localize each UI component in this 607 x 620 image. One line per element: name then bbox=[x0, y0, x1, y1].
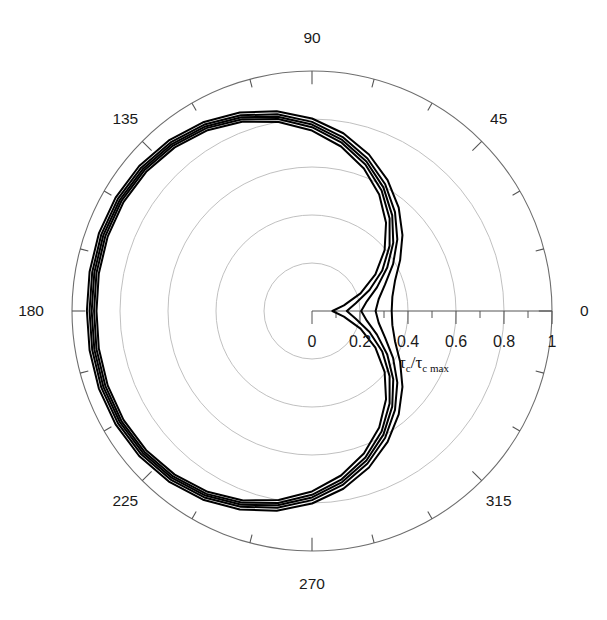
angle-minor-tick-195 bbox=[80, 371, 88, 373]
tau-subscript-cmax: c max bbox=[422, 362, 449, 374]
angle-minor-tick-255 bbox=[250, 535, 252, 543]
radial-label-0.6: 0.6 bbox=[445, 333, 467, 350]
angle-minor-tick-60 bbox=[428, 103, 432, 110]
angle-minor-tick-330 bbox=[513, 427, 520, 431]
angle-minor-tick-285 bbox=[372, 535, 374, 543]
radial-label-0.2: 0.2 bbox=[349, 333, 371, 350]
angle-label-135: 135 bbox=[112, 110, 138, 127]
angle-minor-tick-75 bbox=[372, 79, 374, 87]
angle-minor-tick-240 bbox=[192, 512, 196, 519]
radial-axis-title: τc/τc max bbox=[399, 353, 449, 374]
angle-minor-tick-300 bbox=[428, 512, 432, 519]
angle-label-90: 90 bbox=[303, 29, 321, 46]
angle-minor-tick-345 bbox=[536, 371, 544, 373]
angle-minor-tick-105 bbox=[250, 79, 252, 87]
radial-label-0.8: 0.8 bbox=[493, 333, 515, 350]
angle-major-tick-315 bbox=[472, 471, 481, 480]
angle-minor-tick-165 bbox=[80, 249, 88, 251]
radial-label-0: 0 bbox=[308, 333, 317, 350]
angle-major-tick-45 bbox=[472, 141, 481, 150]
radial-label-0.4: 0.4 bbox=[397, 333, 419, 350]
angle-label-225: 225 bbox=[112, 492, 138, 509]
angle-label-315: 315 bbox=[486, 492, 512, 509]
polar-chart-figure: 04590135180225270315 00.20.40.60.81 τc/τ… bbox=[0, 0, 607, 620]
radial-tick-labels: 00.20.40.60.81 bbox=[308, 333, 557, 350]
angle-minor-tick-120 bbox=[192, 103, 196, 110]
angle-label-45: 45 bbox=[490, 110, 507, 127]
radial-label-1: 1 bbox=[548, 333, 557, 350]
angle-label-270: 270 bbox=[299, 575, 325, 592]
angle-minor-tick-150 bbox=[104, 191, 111, 195]
angle-major-tick-135 bbox=[142, 141, 151, 150]
angle-minor-tick-30 bbox=[513, 191, 520, 195]
axis-title-text: τc/τc max bbox=[399, 353, 449, 374]
angle-label-180: 180 bbox=[18, 302, 44, 319]
angle-minor-tick-15 bbox=[536, 249, 544, 251]
angle-minor-tick-210 bbox=[104, 427, 111, 431]
polar-chart-canvas: 04590135180225270315 00.20.40.60.81 τc/τ… bbox=[0, 0, 607, 620]
angle-label-0: 0 bbox=[580, 302, 589, 319]
angle-major-tick-225 bbox=[142, 471, 151, 480]
